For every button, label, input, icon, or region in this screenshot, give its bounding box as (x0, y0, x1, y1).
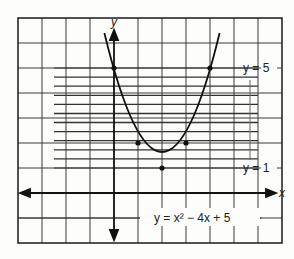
x-axis-right-arrow-icon (266, 189, 276, 197)
point-2-1 (159, 165, 164, 170)
parabola-graph: y x y = 5 y = 1 y = x² − 4x + 5 (0, 0, 294, 259)
y-axis-label: y (110, 15, 118, 29)
x-axis-label: x (278, 186, 286, 200)
point-1-2 (135, 140, 140, 145)
y-axis-down-arrow-icon (110, 230, 118, 240)
y-axis-up-arrow-icon (110, 30, 118, 40)
point-4-5 (207, 65, 212, 70)
x-axis (20, 189, 276, 197)
curve-equation-label: y = x² − 4x + 5 (154, 211, 231, 225)
label-y-equals-1: y = 1 (243, 161, 270, 175)
label-y-equals-5: y = 5 (243, 61, 270, 75)
x-axis-left-arrow-icon (20, 189, 30, 197)
point-3-2 (183, 140, 188, 145)
point-0-5 (111, 65, 116, 70)
